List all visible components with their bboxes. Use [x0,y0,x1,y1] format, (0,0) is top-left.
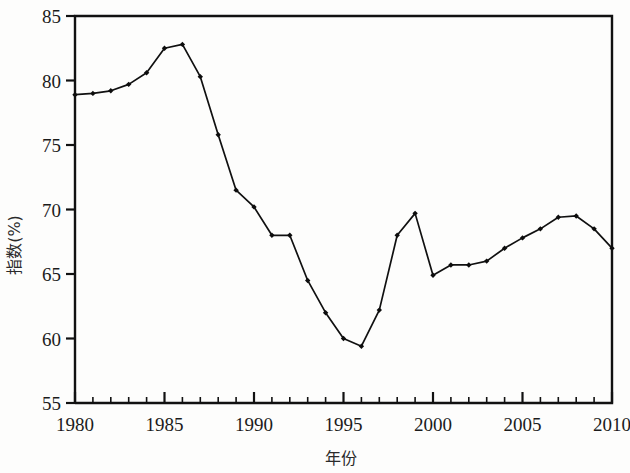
data-point-marker [377,307,382,312]
y-tick-label: 75 [42,135,61,156]
x-tick-label: 1985 [146,414,184,435]
line-chart-canvas: 55606570758085 1980198519901995200020052… [0,0,630,473]
x-tick-label: 2010 [593,414,630,435]
y-tick-label: 60 [42,329,61,350]
x-tick-label: 1980 [56,414,94,435]
data-point-marker [108,88,113,93]
data-point-marker [287,233,292,238]
y-tick-label: 80 [42,71,61,92]
chart-figure: 55606570758085 1980198519901995200020052… [0,0,630,473]
data-point-marker [72,92,77,97]
x-tick-label: 2000 [414,414,452,435]
y-axis-ticks [66,16,75,403]
x-axis-title: 年份 [325,449,357,468]
y-axis-tick-labels: 55606570758085 [42,6,61,414]
data-point-marker [216,132,221,137]
y-tick-label: 85 [42,6,61,27]
x-tick-label: 2005 [504,414,542,435]
y-axis-title: 指数(%) [5,215,24,275]
data-point-marker [90,91,95,96]
data-point-marker [359,344,364,349]
data-series-line [75,44,612,346]
y-tick-label: 55 [42,393,61,414]
x-axis-tick-labels: 1980198519901995200020052010 [56,414,630,435]
axis-frame [75,16,612,403]
x-tick-label: 1995 [325,414,363,435]
y-tick-label: 65 [42,264,61,285]
data-point-marker [466,262,471,267]
x-tick-label: 1990 [235,414,273,435]
data-series-markers [72,42,614,349]
x-axis-ticks [75,392,612,403]
y-tick-label: 70 [42,200,61,221]
